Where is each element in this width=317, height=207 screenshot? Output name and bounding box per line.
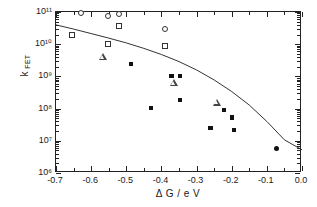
y-axis-title-subscript: FET: [24, 55, 31, 69]
y-axis-minor-tick: [56, 163, 59, 164]
y-axis-minor-tick: [297, 86, 300, 87]
y-axis-minor-tick: [297, 118, 300, 119]
y-axis-tick-label: 10⁷: [2, 135, 52, 145]
x-axis-tick-label: -0.1: [258, 175, 274, 185]
x-axis-tick-label: -0.5: [118, 175, 134, 185]
y-axis-minor-tick: [56, 158, 59, 159]
x-axis-tick: [197, 166, 198, 171]
y-axis-tick: [56, 76, 61, 77]
y-axis-minor-tick: [56, 110, 59, 111]
y-axis-minor-tick: [297, 142, 300, 143]
x-axis-tick: [56, 166, 57, 171]
y-axis-minor-tick: [56, 47, 59, 48]
y-axis-minor-tick: [56, 121, 59, 122]
y-axis-minor-tick: [297, 47, 300, 48]
y-axis-tick-label: 10¹¹: [2, 6, 52, 16]
y-axis-tick-label: 10⁶: [2, 167, 52, 177]
y-axis-minor-tick: [56, 114, 59, 115]
y-axis-minor-tick: [297, 148, 300, 149]
x-axis-title: Δ G / e V: [55, 188, 301, 199]
y-axis-minor-tick: [297, 81, 300, 82]
x-axis-minor-tick: [214, 12, 215, 15]
y-axis-minor-tick: [297, 19, 300, 20]
y-axis-minor-tick: [56, 154, 59, 155]
data-point-open-circle: [105, 13, 111, 19]
data-point-open-triangle: [99, 53, 107, 60]
data-point-filled-square: [232, 128, 237, 133]
y-axis-minor-tick: [56, 99, 59, 100]
data-point-filled-square: [149, 106, 154, 111]
x-axis-minor-tick: [214, 168, 215, 171]
data-point-filled-square: [230, 115, 235, 120]
y-axis-minor-tick: [56, 148, 59, 149]
y-axis-minor-tick: [56, 57, 59, 58]
y-axis-minor-tick: [56, 116, 59, 117]
x-axis-tick: [232, 166, 233, 171]
data-point-open-square: [105, 41, 111, 47]
data-point-filled-square: [222, 108, 227, 113]
y-axis-minor-tick: [297, 121, 300, 122]
figure-chart-kfet-vs-deltag: 10⁶10⁷10⁸10⁹10¹⁰10¹¹ k FET Δ G / e V -0.…: [0, 0, 317, 207]
y-axis-minor-tick: [56, 81, 59, 82]
y-axis-tick-label: 10⁸: [2, 103, 52, 113]
x-axis-minor-tick: [109, 168, 110, 171]
y-axis-tick: [56, 141, 61, 142]
x-axis-minor-tick: [179, 12, 180, 15]
data-point-open-square: [116, 23, 122, 29]
y-axis-minor-tick: [297, 154, 300, 155]
y-axis-minor-tick: [56, 22, 59, 23]
y-axis-minor-tick: [297, 116, 300, 117]
y-axis-minor-tick: [297, 89, 300, 90]
y-axis-minor-tick: [56, 35, 59, 36]
y-axis-minor-tick: [297, 15, 300, 16]
fit-curve: [56, 12, 302, 173]
x-axis-tick: [267, 12, 268, 17]
y-axis-tick: [56, 173, 61, 174]
y-axis-minor-tick: [56, 17, 59, 18]
x-axis-tick-label: -0.7: [47, 175, 63, 185]
x-axis-tick: [197, 12, 198, 17]
x-axis-minor-tick: [144, 12, 145, 15]
y-axis-minor-tick: [297, 61, 300, 62]
plot-area: [55, 11, 301, 172]
y-axis-minor-tick: [56, 144, 59, 145]
x-axis-tick-label: -0.3: [188, 175, 204, 185]
y-axis-minor-tick: [56, 61, 59, 62]
x-axis-tick: [126, 12, 127, 17]
x-axis-tick: [232, 12, 233, 17]
y-axis-minor-tick: [297, 80, 300, 81]
x-axis-tick: [161, 166, 162, 171]
y-axis-minor-tick: [56, 46, 59, 47]
y-axis-minor-tick: [297, 158, 300, 159]
y-axis-minor-tick: [297, 29, 300, 30]
data-point-filled-square: [169, 74, 174, 79]
y-axis-minor-tick: [56, 29, 59, 30]
y-axis-minor-tick: [56, 67, 59, 68]
y-axis-minor-tick: [297, 57, 300, 58]
y-axis-minor-tick: [297, 125, 300, 126]
y-axis-minor-tick: [56, 51, 59, 52]
x-axis-tick: [267, 166, 268, 171]
x-axis-minor-tick: [74, 168, 75, 171]
y-axis-tick: [295, 76, 300, 77]
y-axis-minor-tick: [56, 19, 59, 20]
x-axis-minor-tick: [74, 12, 75, 15]
data-point-open-triangle: [170, 79, 178, 86]
y-axis-minor-tick: [297, 17, 300, 18]
y-axis-title: k FET: [19, 36, 30, 96]
y-axis-tick: [295, 109, 300, 110]
y-axis-minor-tick: [297, 22, 300, 23]
x-axis-tick: [91, 12, 92, 17]
data-point-open-triangle: [213, 99, 221, 106]
y-axis-minor-tick: [297, 25, 300, 26]
y-axis-minor-tick: [297, 150, 300, 151]
y-axis-minor-tick: [56, 93, 59, 94]
x-axis-minor-tick: [249, 12, 250, 15]
x-axis-tick-label: 0.0: [295, 175, 308, 185]
x-axis-tick-label: -0.2: [223, 175, 239, 185]
y-axis-minor-tick: [297, 51, 300, 52]
y-axis-minor-tick: [297, 84, 300, 85]
data-point-filled-square: [129, 62, 134, 67]
x-axis-minor-tick: [284, 168, 285, 171]
y-axis-minor-tick: [56, 80, 59, 81]
